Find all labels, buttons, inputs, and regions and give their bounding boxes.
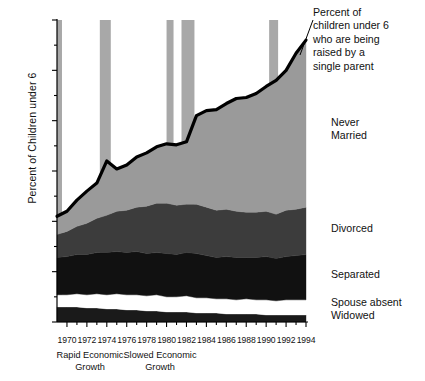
annotation-widowed: Widowed bbox=[331, 309, 375, 322]
annotation-spouse-absent: Spouse absent bbox=[331, 296, 402, 309]
x-axis-ticks bbox=[67, 322, 306, 327]
annotation-separated: Separated bbox=[331, 268, 380, 281]
chart-root: Percent of Children under 6 0%5%10%15%20… bbox=[0, 0, 425, 381]
footnote-slowed-growth: Slowed Economic Growth bbox=[123, 350, 196, 373]
annotation-never-married: Never Married bbox=[331, 116, 367, 143]
annotation-chart-title: Percent of children under 6 who are bein… bbox=[313, 6, 389, 73]
area-series-separated bbox=[57, 252, 306, 301]
annotation-leader-line bbox=[300, 20, 313, 55]
annotation-divorced: Divorced bbox=[331, 222, 373, 235]
y-axis-ticks bbox=[52, 20, 57, 322]
footnote-rapid-growth: Rapid Economic Growth bbox=[57, 350, 124, 373]
